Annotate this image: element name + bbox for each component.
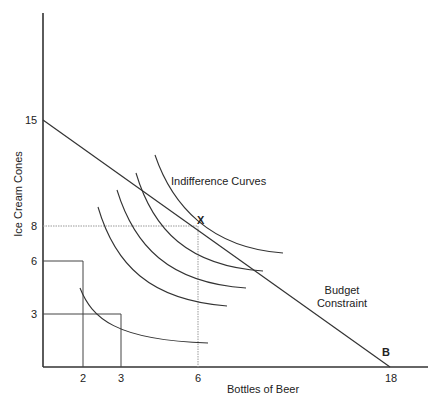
indifference-diagram: 15 8 6 3 2 3 6 18 Ice Cream Cones Bottle… bbox=[0, 0, 439, 407]
point-x-label: X bbox=[197, 214, 205, 226]
point-b-label: B bbox=[382, 346, 390, 358]
indifference-curves-label: Indifference Curves bbox=[171, 175, 267, 187]
x-tick-2: 2 bbox=[80, 372, 86, 384]
budget-label-line2: Constraint bbox=[317, 297, 367, 309]
x-tick-6: 6 bbox=[195, 372, 201, 384]
x-tick-3: 3 bbox=[118, 372, 124, 384]
indifference-curve-1 bbox=[80, 288, 208, 343]
indifference-curve-2 bbox=[98, 207, 227, 306]
guide-lines bbox=[43, 226, 198, 367]
x-tick-18: 18 bbox=[385, 372, 397, 384]
y-tick-6: 6 bbox=[31, 255, 37, 267]
x-axis-label: Bottles of Beer bbox=[227, 383, 299, 395]
y-tick-3: 3 bbox=[31, 308, 37, 320]
y-tick-15: 15 bbox=[25, 114, 37, 126]
y-tick-8: 8 bbox=[31, 220, 37, 232]
y-axis-label: Ice Cream Cones bbox=[12, 151, 24, 237]
budget-constraint-line bbox=[43, 120, 390, 367]
budget-label-line1: Budget bbox=[325, 284, 360, 296]
